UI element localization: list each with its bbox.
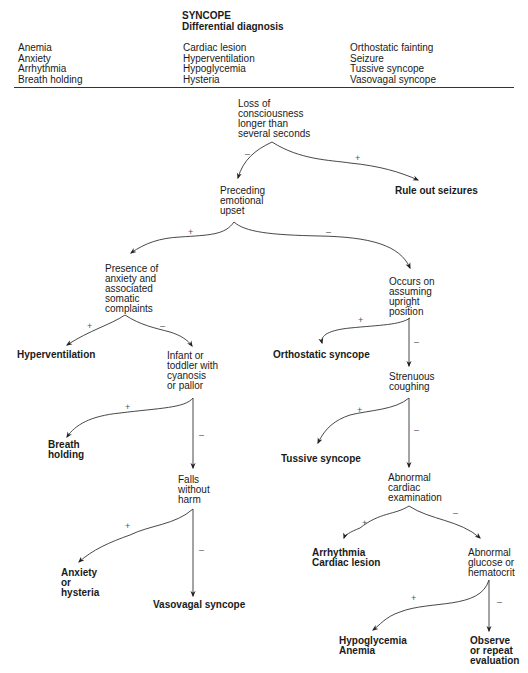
node-line: position <box>389 307 435 317</box>
node-line: or pallor <box>167 381 218 391</box>
edge-falls-to-anxhyst <box>79 509 193 562</box>
minus-sign: – <box>497 598 502 607</box>
plus-sign: + <box>355 154 360 163</box>
minus-sign: – <box>414 426 419 435</box>
node-line: harm <box>178 495 210 505</box>
plus-sign: + <box>362 519 367 528</box>
leaf-observe-repeat: Observe or repeat evaluation <box>470 636 519 666</box>
node-line: complaints <box>105 304 158 314</box>
node-line: Vasovagal syncope <box>153 600 245 610</box>
node-line: Cardiac lesion <box>312 558 380 568</box>
minus-sign: – <box>453 509 458 518</box>
node-line: upset <box>220 206 265 216</box>
plus-sign: + <box>357 406 362 415</box>
node-falls-without-harm: Falls without harm <box>178 475 210 505</box>
node-line: Anemia <box>339 646 407 656</box>
node-line: examination <box>388 493 442 503</box>
minus-sign: – <box>245 150 250 159</box>
leaf-tussive-syncope: Tussive syncope <box>281 454 361 464</box>
edge-cardiac-to-arrhythmia <box>344 506 409 538</box>
edge-anxiety-to-infant <box>125 315 192 346</box>
node-line: Hyperventilation <box>17 350 95 360</box>
minus-sign: – <box>414 338 419 347</box>
edge-emotional-to-anxiety <box>131 222 234 253</box>
node-line: several seconds <box>238 129 310 139</box>
edge-coughing-to-tussive <box>318 398 409 443</box>
leaf-arrhythmia-cardiac-lesion: Arrhythmia Cardiac lesion <box>312 548 380 568</box>
leaf-vasovagal-syncope: Vasovagal syncope <box>153 600 245 610</box>
edge-loc-to-seizures <box>272 142 418 180</box>
node-abnormal-cardiac-exam: Abnormal cardiac examination <box>388 473 442 503</box>
leaf-hyperventilation: Hyperventilation <box>17 350 95 360</box>
leaf-orthostatic-syncope: Orthostatic syncope <box>273 350 370 360</box>
node-line: evaluation <box>470 656 519 666</box>
minus-sign: – <box>326 228 331 237</box>
leaf-hypoglycemia-anemia: Hypoglycemia Anemia <box>339 636 407 656</box>
node-line: hysteria <box>61 588 99 598</box>
plus-sign: + <box>125 403 130 412</box>
node-strenuous-coughing: Strenuous coughing <box>389 372 435 392</box>
node-abnormal-glucose: Abnormal glucose or hematocrit <box>468 548 515 578</box>
edge-upright-to-orthostatic <box>322 318 410 343</box>
plus-sign: + <box>411 594 416 603</box>
edge-loc-to-emotional <box>238 142 272 178</box>
node-line: Tussive syncope <box>281 454 361 464</box>
plus-sign: + <box>87 322 92 331</box>
node-occurs-upright: Occurs on assuming upright position <box>389 277 435 317</box>
plus-sign: + <box>125 522 130 531</box>
node-loss-of-consciousness: Loss of consciousness longer than severa… <box>238 99 310 139</box>
node-line: hematocrit <box>468 568 515 578</box>
plus-sign: + <box>188 228 193 237</box>
node-infant-toddler: Infant or toddler with cyanosis or pallo… <box>167 351 218 391</box>
minus-sign: – <box>199 431 204 440</box>
leaf-anxiety-or-hysteria: Anxiety or hysteria <box>61 568 99 598</box>
minus-sign: – <box>160 322 165 331</box>
leaf-rule-out-seizures: Rule out seizures <box>395 186 478 196</box>
edge-emotional-to-upright <box>234 222 410 268</box>
node-line: Rule out seizures <box>395 186 478 196</box>
node-preceding-emotional-upset: Preceding emotional upset <box>220 186 265 216</box>
node-line: coughing <box>389 382 435 392</box>
edge-anxiety-to-hypervent <box>67 315 125 345</box>
leaf-breath-holding: Breath holding <box>48 440 84 460</box>
node-line: Orthostatic syncope <box>273 350 370 360</box>
node-presence-of-anxiety: Presence of anxiety and associated somat… <box>105 264 158 314</box>
plus-sign: + <box>358 316 363 325</box>
edge-glucose-to-hypoglycemia <box>373 580 489 630</box>
minus-sign: – <box>199 546 204 555</box>
node-line: holding <box>48 450 84 460</box>
edge-cardiac-to-glucose <box>409 506 480 538</box>
